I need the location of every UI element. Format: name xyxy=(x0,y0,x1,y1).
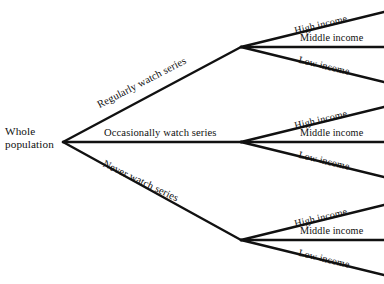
root-label-line-1: Whole xyxy=(5,125,54,138)
leaf-label-occasionally-middle: Middle income xyxy=(300,127,363,139)
root-node-label: Whole population xyxy=(5,125,54,151)
leaf-label-regularly-middle: Middle income xyxy=(300,32,363,44)
leaf-label-never-middle: Middle income xyxy=(300,225,363,237)
branch-label-occasionally: Occasionally watch series xyxy=(104,127,217,139)
root-label-line-2: population xyxy=(5,138,54,151)
tree-diagram: Whole population Regularly watch series … xyxy=(0,0,384,284)
